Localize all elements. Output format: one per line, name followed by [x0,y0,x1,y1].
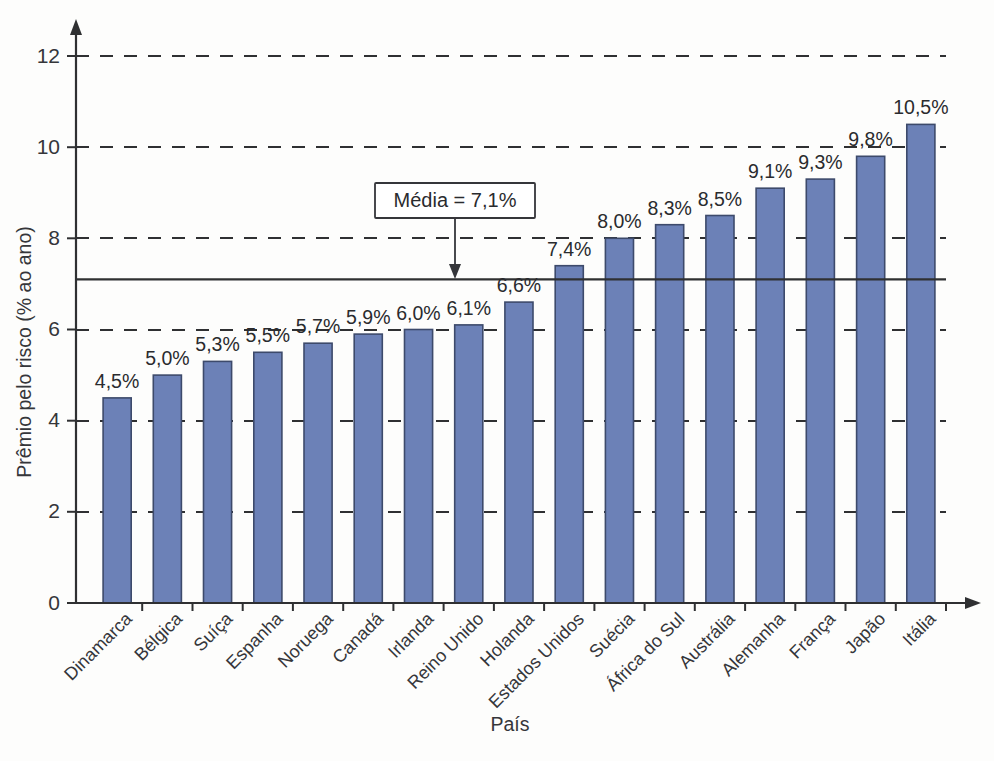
bar-value-label: 6,1% [447,297,491,319]
bar [656,225,684,603]
bar-value-label: 10,5% [893,96,948,118]
y-axis-ticks [67,56,76,603]
y-axis-tick-label: 6 [48,317,60,340]
x-axis-category-label: Japão [841,609,890,658]
y-axis-tick-label: 2 [48,499,60,522]
bar-value-label: 5,9% [346,306,390,328]
x-axis-category-label: Canadá [328,608,387,667]
bar [405,330,433,604]
x-axis-category-label: Itália [899,608,941,650]
bar-value-label: 6,0% [396,302,440,324]
x-axis-arrowhead [965,597,981,609]
bar [254,352,282,603]
y-axis-tick-label: 4 [48,408,60,431]
bar-value-label: 8,5% [698,188,742,210]
risk-premium-bar-chart-figure: 024681012 DinamarcaBélgicaSuíçaEspanhaNo… [0,0,994,761]
bar-value-label: 5,7% [296,315,340,337]
x-axis-category-label: Espanha [222,608,287,673]
y-axis-tick-label: 0 [48,591,60,614]
bar [153,375,181,603]
bar [605,238,633,603]
y-axis-title: Prêmio pelo risco (% ao ano) [13,226,35,477]
mean-callout-arrowhead [449,264,461,279]
bar [555,266,583,603]
y-axis-tick-label: 10 [37,135,60,158]
x-axis-title: País [490,713,529,735]
bar-value-label: 6,6% [497,274,541,296]
y-axis-tick-labels: 024681012 [37,44,61,614]
bar [806,179,834,603]
bar [354,334,382,603]
y-axis: 024681012 [37,19,82,614]
bar-value-label: 8,0% [597,210,641,232]
bar [857,156,885,603]
bar [204,361,232,603]
bar-value-label: 7,4% [547,238,591,260]
y-axis-arrowhead [70,19,82,35]
bar-value-label: 9,3% [798,151,842,173]
bar-value-label: 4,5% [95,370,139,392]
bar-value-label: 5,3% [195,333,239,355]
chart-canvas: 024681012 DinamarcaBélgicaSuíçaEspanhaNo… [0,0,994,761]
bar [756,188,784,603]
bar-value-label: 9,8% [848,128,892,150]
bar [706,216,734,604]
bar-value-label: 9,1% [748,160,792,182]
bar [103,398,131,603]
bar [455,325,483,603]
bar [907,124,935,603]
bar [304,343,332,603]
y-axis-tick-label: 12 [37,44,60,67]
x-axis-category-labels: DinamarcaBélgicaSuíçaEspanhaNoruegaCanad… [60,608,940,712]
bar-value-label: 5,5% [246,324,290,346]
mean-callout-label: Média = 7,1% [394,189,517,211]
x-axis-category-label: Dinamarca [60,608,136,684]
mean-callout: Média = 7,1% [375,183,535,279]
bar-value-label: 5,0% [145,347,189,369]
bar-value-label: 8,3% [647,197,691,219]
x-axis-category-label: França [785,608,839,662]
x-axis-category-label: Noruega [274,608,338,672]
x-axis-category-label: Bélgica [130,608,187,665]
x-axis-category-label: Suíça [190,608,237,655]
bar [505,302,533,603]
y-axis-tick-label: 8 [48,226,60,249]
